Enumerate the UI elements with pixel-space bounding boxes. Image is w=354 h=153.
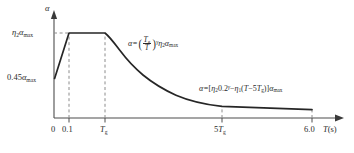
- alpha-subscript: max: [273, 87, 282, 93]
- spectrum-curve: [55, 33, 312, 110]
- fraction-numerator: Tg: [143, 36, 152, 44]
- x-tick-label-6point0: 6.0: [304, 125, 315, 134]
- t-subscript: g: [148, 39, 151, 44]
- coefficient-text: 0.45: [7, 72, 22, 82]
- seismic-spectrum-figure: α η2αmax 0.45αmax 0 0.1 Tg 5Tg 6.0 T(s) …: [0, 0, 354, 153]
- gamma-exponent: γ: [228, 84, 230, 90]
- dashed-guides: [54, 33, 312, 118]
- t-subscript: g: [105, 129, 108, 135]
- eta2-subscript: 2: [215, 87, 218, 93]
- constant-0point2: 0.2: [218, 84, 228, 93]
- alpha-equals: α=: [199, 84, 209, 93]
- alpha-symbol: α: [19, 27, 23, 37]
- formula-power-decay: α=(TgT)γη2αmax: [128, 36, 178, 52]
- x-tick-label-5tg: 5Tg: [214, 125, 226, 134]
- fraction-tg-over-t: TgT: [143, 36, 152, 52]
- alpha-subscript: max: [24, 32, 34, 38]
- y-axis-label: α: [45, 4, 49, 13]
- eta-subscript: 2: [162, 42, 165, 48]
- y-value-label-eta2-alphamax: η2αmax: [12, 28, 33, 37]
- x-axis-label: T(s): [323, 125, 337, 134]
- t-subscript: g: [223, 129, 226, 135]
- formula-linear-tail: α=[η20.2γ−η1(T−5Tg)]αmax: [199, 85, 282, 93]
- alpha-subscript: max: [169, 42, 178, 48]
- left-paren: (: [138, 39, 141, 49]
- eta1-subscript: 1: [238, 87, 241, 93]
- fraction-denominator: T: [143, 43, 152, 52]
- x-tick-label-tg: Tg: [100, 125, 108, 134]
- alpha-subscript: max: [26, 77, 36, 83]
- y-value-label-0point45-alphamax: 0.45αmax: [7, 73, 36, 82]
- x-axis-ticks: [69, 118, 312, 123]
- x-axis-arrowhead: [335, 115, 344, 122]
- x-tick-label-0point1: 0.1: [62, 125, 73, 134]
- y-axis-arrowhead: [51, 10, 57, 19]
- unit-text: (s): [328, 124, 337, 134]
- axis-group: [51, 10, 344, 121]
- tg-subscript: g: [261, 87, 264, 93]
- eta-subscript: 2: [16, 32, 19, 38]
- alpha-equals: α=: [128, 39, 138, 48]
- x-tick-label-0: 0: [51, 125, 55, 134]
- gamma-exponent: γ: [156, 39, 158, 45]
